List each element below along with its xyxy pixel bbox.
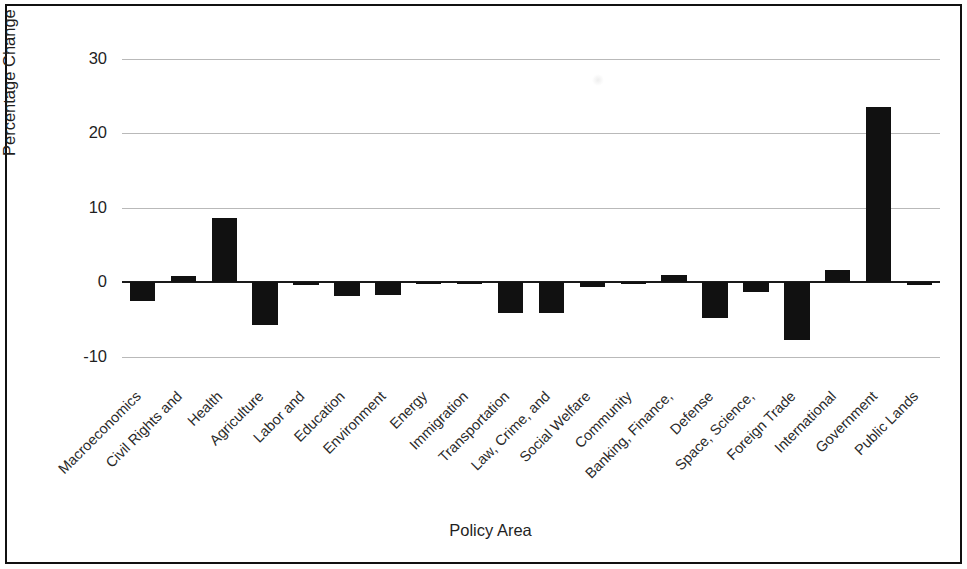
bar xyxy=(907,282,932,285)
bar xyxy=(825,270,850,282)
x-tick-label: Social Welfare xyxy=(516,388,593,465)
bar xyxy=(702,282,727,318)
bar xyxy=(293,282,318,285)
bar xyxy=(375,282,400,295)
scan-artifact xyxy=(592,74,604,86)
zero-axis-line xyxy=(122,281,940,283)
gridline xyxy=(122,133,940,134)
gridline xyxy=(122,357,940,358)
bar xyxy=(171,276,196,282)
y-axis-title: Percentage Change xyxy=(0,9,19,156)
x-tick-label-text: Social Welfare xyxy=(516,388,593,465)
y-tick-label: 30 xyxy=(47,50,107,67)
y-tick-label: 20 xyxy=(47,124,107,141)
bar xyxy=(743,282,768,292)
bar xyxy=(661,275,686,282)
bar xyxy=(130,282,155,301)
y-tick-label: 10 xyxy=(47,199,107,216)
bar xyxy=(866,107,891,282)
x-tick-label: Civil Rights and xyxy=(102,388,185,471)
bar xyxy=(498,282,523,313)
bar xyxy=(580,282,605,287)
bar xyxy=(252,282,277,325)
bar xyxy=(784,282,809,340)
plot-area xyxy=(122,44,940,379)
bar xyxy=(621,282,646,284)
y-tick-label: -10 xyxy=(47,348,107,365)
gridline xyxy=(122,59,940,60)
figure-frame: Percentage Change 3020100-10 Macroeconom… xyxy=(5,4,962,564)
bar xyxy=(212,218,237,282)
y-tick-label: 0 xyxy=(47,273,107,290)
bar xyxy=(457,282,482,284)
bar xyxy=(416,282,441,284)
x-axis-title: Policy Area xyxy=(7,521,967,540)
gridline xyxy=(122,208,940,209)
bar xyxy=(334,282,359,296)
x-tick-label-text: Civil Rights and xyxy=(102,388,185,471)
bar xyxy=(539,282,564,313)
